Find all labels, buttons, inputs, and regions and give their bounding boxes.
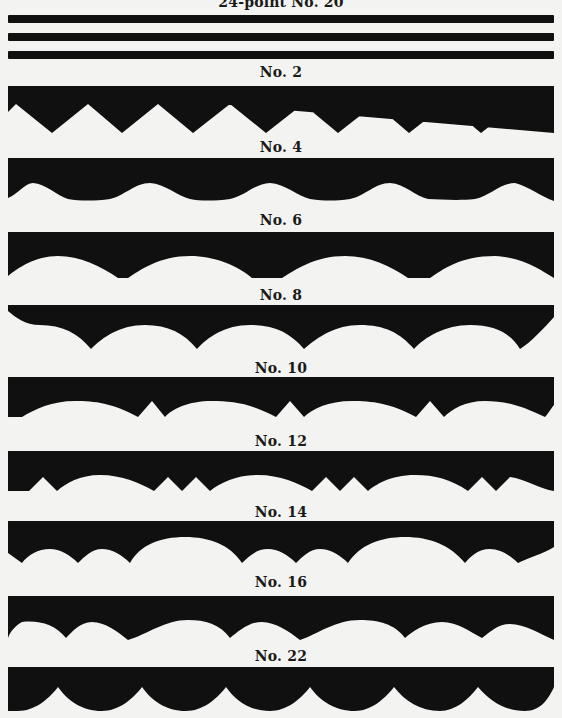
rule-no-12 [0, 449, 562, 499]
specimen-label-no-6: No. 6 [0, 212, 562, 228]
specimen-label-no-20: 24-point No. 20 [0, 0, 562, 10]
rule-no-10 [0, 375, 562, 425]
rule-no-16 [0, 594, 562, 644]
specimen-label-no-12: No. 12 [0, 433, 562, 449]
rule-no-4 [0, 156, 562, 206]
rule-no-22 [0, 665, 562, 717]
specimen-label-no-4: No. 4 [0, 139, 562, 155]
specimen-label-no-2: No. 2 [0, 64, 562, 80]
rule-no-8 [0, 303, 562, 353]
rule-no-20 [0, 14, 562, 64]
specimen-label-no-10: No. 10 [0, 360, 562, 376]
rule-no-14 [0, 519, 562, 569]
specimen-label-no-14: No. 14 [0, 504, 562, 520]
rule-no-6 [0, 230, 562, 280]
specimen-label-no-16: No. 16 [0, 574, 562, 590]
specimen-label-no-8: No. 8 [0, 287, 562, 303]
specimen-label-no-22: No. 22 [0, 648, 562, 664]
rule-no-2 [0, 84, 562, 134]
